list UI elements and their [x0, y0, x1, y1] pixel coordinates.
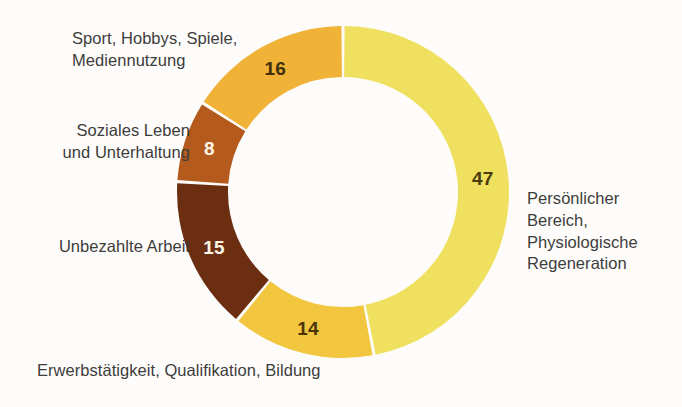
slice-label-soziales-leben-und-unterhaltung: Soziales Leben und Unterhaltung [18, 120, 190, 164]
slice-value-label: 8 [204, 138, 215, 159]
slice-label-unbezahlte-arbeit: Unbezahlte Arbeit [18, 236, 190, 258]
slice-value-label: 47 [472, 168, 494, 189]
donut-slice[interactable] [344, 26, 509, 355]
slice-value-label: 15 [203, 237, 225, 258]
slice-label-erwerbstaetigkeit-qualifikation-bildung: Erwerbstätigkeit, Qualifikation, Bildung [37, 360, 321, 382]
donut-slices [177, 26, 509, 358]
slice-label-persoenlicher-bereich-physiologische-regeneration: Persönlicher Bereich, Physiologische Reg… [527, 188, 677, 275]
donut-chart: 471415816 Sport, Hobbys, Spiele, Medienn… [0, 0, 682, 407]
slice-value-label: 14 [297, 318, 319, 339]
slice-label-sport-hobbys-spiele-mediennutzung: Sport, Hobbys, Spiele, Mediennutzung [72, 28, 237, 72]
slice-value-label: 16 [265, 58, 287, 79]
